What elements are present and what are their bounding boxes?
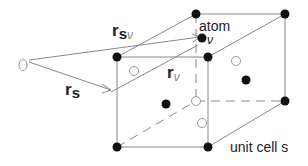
atom-filled — [281, 97, 290, 106]
atom-filled — [281, 10, 290, 19]
atom-filled — [242, 76, 251, 85]
atom-open — [130, 67, 139, 76]
label-r-s-nu: rsν — [112, 21, 133, 42]
atom-filled — [204, 53, 213, 62]
label-atom: atom — [199, 18, 230, 34]
label-unit-cell: unit cell s — [230, 139, 288, 155]
atom-filled — [162, 100, 171, 109]
unit-cell-diagram: rsν rs rν atom ν unit cell s — [0, 0, 308, 166]
atom-filled — [113, 53, 122, 62]
atom-open — [192, 97, 201, 106]
cube-edge-bl-hidden — [117, 101, 196, 147]
vector-r-nu — [111, 45, 198, 92]
label-r-s: rs — [65, 80, 80, 101]
atom-filled — [113, 143, 122, 152]
label-r-nu: rν — [167, 63, 180, 84]
atom-filled — [204, 143, 213, 152]
atom-open — [232, 57, 241, 66]
atom-nu-filled — [198, 34, 207, 43]
origin-marker — [19, 60, 27, 71]
label-atom-nu: ν — [207, 33, 213, 47]
atom-open — [198, 119, 207, 128]
